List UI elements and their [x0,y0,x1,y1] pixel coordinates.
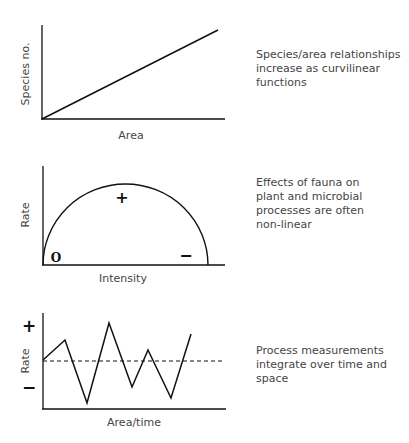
description-line: processes are often [256,204,406,218]
minus-marker: − [22,377,36,397]
panel-fauna-effects: + O − Intensity Rate [19,166,225,285]
y-axis-label: Rate [19,202,32,227]
y-axis-label: Species no. [19,43,32,106]
description-line: non-linear [256,218,406,232]
minus-marker: − [179,246,192,265]
description-line: increase as curvilinear [256,62,406,76]
x-axis-label: Intensity [99,272,147,285]
description-line: Effects of fauna on [256,176,406,190]
description-line: plant and microbial [256,190,406,204]
description-line: Species/area relationships [256,48,406,62]
panel-process-measurements: + − Area/time Rate [19,313,226,429]
plus-marker: + [22,316,36,336]
rate-zigzag [43,323,191,403]
description-species-area: Species/area relationships increase as c… [256,48,406,90]
description-line: functions [256,76,406,90]
description-line: space [256,372,406,386]
y-axis-label: Rate [19,348,32,373]
description-line: Process measurements [256,344,406,358]
zero-marker: O [51,251,61,265]
x-axis-label: Area [118,129,143,142]
species-area-line [42,30,218,119]
description-process-measurements: Process measurements integrate over time… [256,344,406,386]
panel-species-area: Area Species no. [19,25,225,142]
description-fauna-effects: Effects of fauna on plant and microbial … [256,176,406,232]
plus-marker: + [115,188,128,207]
x-axis-label: Area/time [107,416,161,429]
description-line: integrate over time and [256,358,406,372]
